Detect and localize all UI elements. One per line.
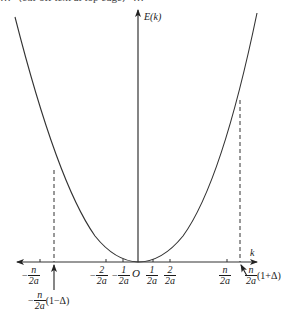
origin-label: O	[132, 268, 140, 278]
right-boundary-label: n2a(1+Δ)	[245, 265, 281, 286]
tick-label-neg-1: −12a	[112, 265, 130, 286]
k-axis-label: k	[250, 248, 254, 258]
dispersion-curve	[15, 13, 257, 262]
tick-label-neg-n: −n2a	[22, 265, 40, 286]
tick-label-pos-n: n2a	[219, 265, 231, 286]
tick-label-pos-1: 12a	[146, 265, 158, 286]
tick-label-pos-2: 22a	[164, 265, 176, 286]
tick-label-neg-2: −22a	[90, 265, 108, 286]
energy-axis-label: E(k)	[144, 12, 161, 22]
left-boundary-label: −n2a(1−Δ)	[28, 290, 69, 311]
